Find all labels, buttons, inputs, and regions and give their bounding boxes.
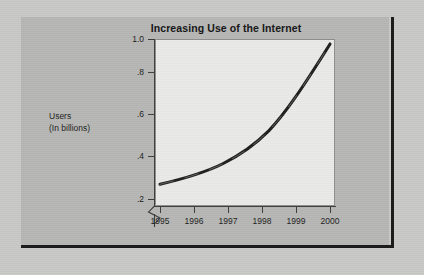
- y-tick-label-0-8: .8: [116, 67, 144, 77]
- y-tick-label-1-0: 1.0: [116, 34, 144, 44]
- scanned-page: Increasing Use of the Internet Users (In…: [0, 0, 424, 275]
- y-tick-1-0: [148, 39, 155, 40]
- y-axis-spine: [154, 39, 155, 206]
- x-tick-label-1997: 1997: [211, 216, 245, 226]
- y-tick-0-2: [148, 199, 155, 200]
- chart: Increasing Use of the Internet Users (In…: [21, 17, 389, 245]
- x-tick-1996: [194, 207, 195, 213]
- x-tick-1998: [262, 207, 263, 213]
- data-line-highlight: [160, 44, 330, 184]
- y-tick-0-4: [148, 156, 155, 157]
- x-tick-label-1995: 1995: [143, 216, 177, 226]
- x-tick-1997: [228, 207, 229, 213]
- x-tick-label-1996: 1996: [177, 216, 211, 226]
- figure-rule-right: [391, 17, 394, 248]
- data-line-svg: [156, 40, 334, 205]
- y-tick-label-0-4: .4: [116, 151, 144, 161]
- plot-area: [155, 39, 335, 206]
- x-tick-2000: [330, 207, 331, 213]
- y-tick-label-0-6: .6: [116, 109, 144, 119]
- x-tick-label-1999: 1999: [279, 216, 313, 226]
- y-axis-caption-line-2: (In billions): [49, 122, 127, 134]
- chart-title: Increasing Use of the Internet: [111, 22, 341, 34]
- data-line-series-users: [160, 44, 330, 184]
- figure-panel: Increasing Use of the Internet Users (In…: [21, 17, 389, 245]
- x-tick-1995: [160, 207, 161, 213]
- y-tick-0-6: [148, 114, 155, 115]
- figure-rule-bottom: [21, 245, 394, 248]
- x-axis-spine: [154, 206, 336, 207]
- x-tick-1999: [296, 207, 297, 213]
- y-tick-label-0-2: .2: [116, 194, 144, 204]
- x-tick-label-2000: 2000: [313, 216, 347, 226]
- y-tick-0-8: [148, 72, 155, 73]
- x-tick-label-1998: 1998: [245, 216, 279, 226]
